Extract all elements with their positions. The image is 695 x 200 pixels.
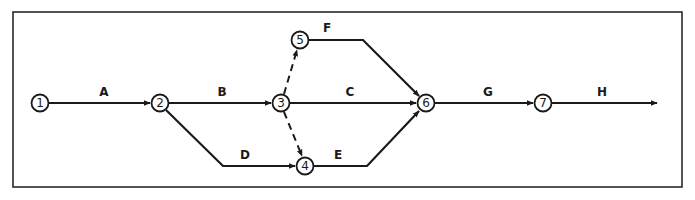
activity-d-arrow xyxy=(166,110,295,166)
node-4: 4 xyxy=(297,158,314,175)
activity-e-arrow xyxy=(314,111,419,166)
activity-h-label: H xyxy=(597,85,607,99)
network-diagram: 1 2 3 4 5 6 7 A B C D E F G H xyxy=(0,0,695,200)
svg-text:5: 5 xyxy=(296,33,304,47)
svg-text:4: 4 xyxy=(301,159,309,173)
activity-f-label: F xyxy=(323,21,331,35)
svg-text:3: 3 xyxy=(277,96,285,110)
node-2: 2 xyxy=(152,95,169,112)
activity-g-label: G xyxy=(483,85,493,99)
node-7: 7 xyxy=(535,95,552,112)
activity-b-label: B xyxy=(217,85,226,99)
node-3: 3 xyxy=(273,95,290,112)
svg-text:2: 2 xyxy=(156,96,164,110)
svg-text:6: 6 xyxy=(422,96,430,110)
node-1: 1 xyxy=(32,95,49,112)
node-6: 6 xyxy=(418,95,435,112)
activity-d-label: D xyxy=(240,148,250,162)
activity-c-label: C xyxy=(346,85,355,99)
svg-text:1: 1 xyxy=(36,96,44,110)
svg-text:7: 7 xyxy=(539,96,547,110)
diagram-frame xyxy=(13,12,682,187)
dummy-3-4-arrow xyxy=(284,112,302,156)
dummy-3-5-arrow xyxy=(284,50,297,94)
node-5: 5 xyxy=(292,32,309,49)
activity-a-label: A xyxy=(99,85,109,99)
activity-f-arrow xyxy=(309,40,419,96)
activity-e-label: E xyxy=(334,148,342,162)
